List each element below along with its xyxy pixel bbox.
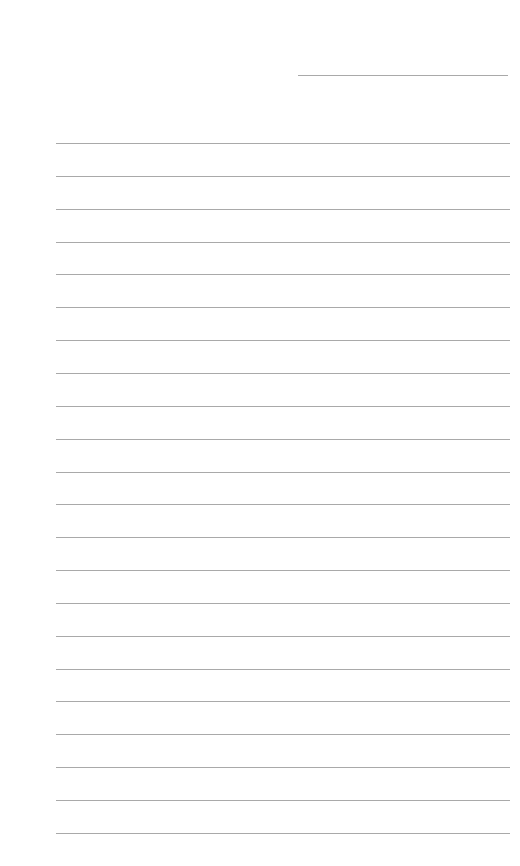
ruled-line: [56, 373, 510, 374]
ruled-line: [56, 570, 510, 571]
ruled-line: [56, 800, 510, 801]
ruled-line: [56, 242, 510, 243]
ruled-line: [56, 143, 510, 144]
ruled-line: [56, 176, 510, 177]
ruled-line: [56, 307, 510, 308]
ruled-line: [56, 767, 510, 768]
ruled-line: [56, 537, 510, 538]
ruled-line: [56, 472, 510, 473]
ruled-line: [56, 669, 510, 670]
ruled-line: [56, 734, 510, 735]
ruled-line: [56, 636, 510, 637]
ruled-line: [56, 603, 510, 604]
lined-paper-page: [0, 0, 520, 866]
ruled-line: [56, 209, 510, 210]
ruled-line: [56, 833, 510, 834]
ruled-line: [56, 504, 510, 505]
ruled-line: [56, 439, 510, 440]
ruled-line: [56, 701, 510, 702]
ruled-line: [56, 406, 510, 407]
ruled-line: [56, 340, 510, 341]
ruled-line: [56, 274, 510, 275]
header-line: [298, 75, 508, 76]
